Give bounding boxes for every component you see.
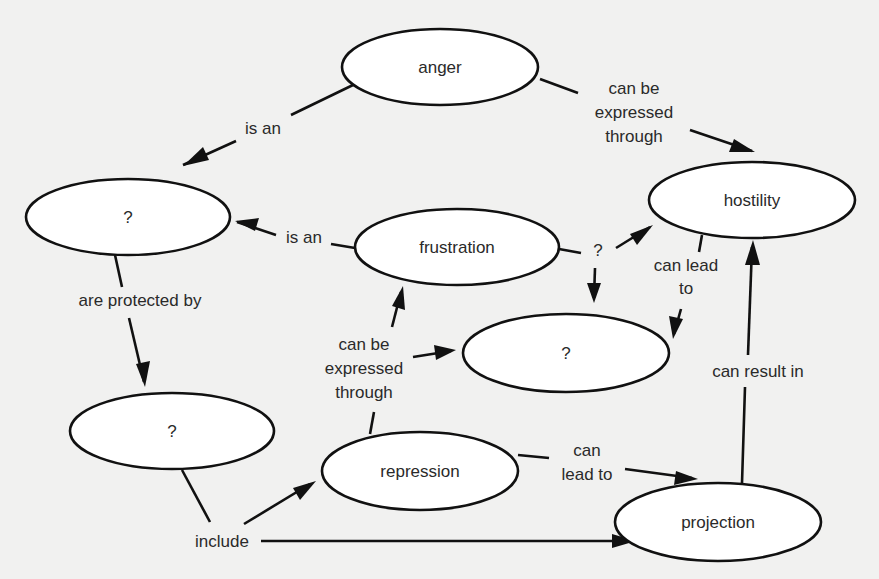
edge-label-anger-expressed: expressed: [595, 103, 673, 122]
edge-frustration-question: [559, 249, 581, 253]
edge-label-repression-through: through: [335, 383, 393, 402]
edge-label-is-an-frustration: is an: [286, 228, 322, 247]
edge-label-anger-can-be: can be: [608, 79, 659, 98]
edge-question-hostility: [616, 225, 653, 248]
node-repression-label: repression: [380, 462, 459, 481]
node-unknown-top-left[interactable]: ?: [26, 179, 230, 255]
edge-label-frustration-question: ?: [593, 241, 602, 260]
edge-label-repression-lead-to: lead to: [561, 465, 612, 484]
node-unknown-top-left-label: ?: [123, 208, 132, 227]
edge-label-hostility-to: to: [679, 279, 693, 298]
node-repression[interactable]: repression: [322, 432, 518, 510]
concept-map: anger ? frustration hostility ? ? repres…: [0, 0, 879, 579]
edge-label-are-protected-by: are protected by: [79, 291, 202, 310]
node-hostility-label: hostility: [724, 191, 781, 210]
node-unknown-middle-label: ?: [561, 344, 570, 363]
edge-label-include: include: [195, 532, 249, 551]
node-anger-label: anger: [418, 58, 462, 77]
edge-label-hostility-can-lead: can lead: [654, 256, 718, 275]
edge-unknown-protected-by: [115, 255, 150, 387]
edge-question-unknown-middle: [587, 268, 601, 303]
edge-label-repression-can-be: can be: [338, 335, 389, 354]
node-unknown-bottom-left[interactable]: ?: [70, 393, 274, 469]
node-projection-label: projection: [681, 513, 755, 532]
node-frustration-label: frustration: [419, 238, 495, 257]
edge-label-anger-through: through: [605, 127, 663, 146]
node-hostility[interactable]: hostility: [649, 162, 855, 238]
edge-label-repression-can: can: [573, 441, 600, 460]
node-unknown-middle[interactable]: ?: [463, 314, 669, 392]
node-frustration[interactable]: frustration: [355, 209, 559, 285]
concept-map-svg: anger ? frustration hostility ? ? repres…: [0, 0, 879, 579]
node-unknown-bottom-left-label: ?: [167, 422, 176, 441]
node-anger[interactable]: anger: [342, 29, 538, 105]
node-projection[interactable]: projection: [615, 483, 821, 561]
edge-label-is-an-anger: is an: [245, 119, 281, 138]
edge-label-can-result-in: can result in: [712, 362, 804, 381]
edge-label-repression-expressed: expressed: [325, 359, 403, 378]
